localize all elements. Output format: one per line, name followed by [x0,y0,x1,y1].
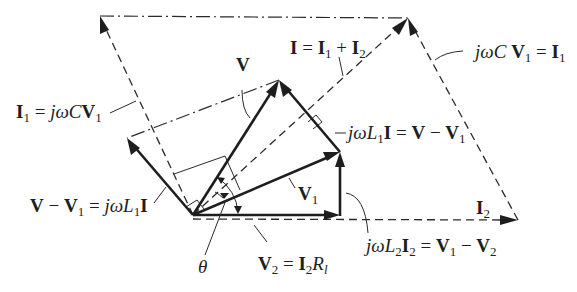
label-theta: θ [198,257,207,276]
jwL1I-right-vector [285,87,340,152]
label-V: V [236,55,250,74]
leader-jwL2I2 [346,193,368,233]
label-V2-eq-I2Rl: V2 = I2Rl [258,254,328,276]
I1-left-dashed-vector [104,25,193,215]
I2-arrowhead [500,215,518,225]
leader-I1-left [110,101,136,113]
label-jwL2I2-eq-V1-minus-V2: jωL2I2 = V1 − V2 [366,236,497,258]
leader-V [242,90,250,118]
top-construction-line [100,16,408,18]
label-I2: I2 [476,198,490,220]
right-angle-box-large [174,156,240,190]
theta-arc-arrowhead-bottom [234,206,242,214]
label-I1-eq-jwCV1-left: I1 = jωCV1 [16,102,102,124]
leader-V-minus-V1-left [154,187,166,203]
v-to-left-construction-line [127,80,279,138]
label-V1: V1 [298,184,318,206]
label-jwL1I-eq-V-minus-V1: jωL1I = V − V1 [348,123,466,145]
leader-V1 [289,178,295,188]
leader-V2 [254,225,267,242]
label-jwCV1-eq-I1-right: jωC V1 = I1 [475,42,565,64]
label-I-eq-I1-plus-I2: I = I1 + I2 [290,38,366,60]
V2-arrowhead [324,210,340,220]
label-V-minus-V1-eq-jwL1I: V − V1 = jωL1I [30,196,148,218]
leader-jwCV1-right [435,51,463,60]
I-arrowhead [392,18,408,35]
I2-dashed-vector [193,219,506,220]
